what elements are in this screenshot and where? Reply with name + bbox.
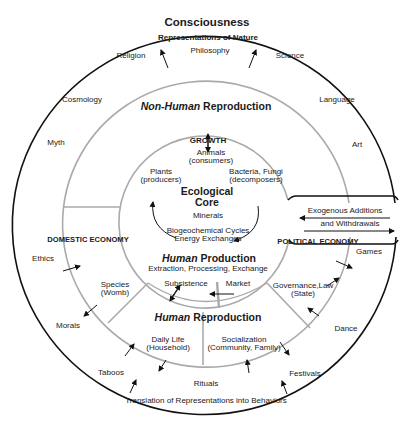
label-rituals: Rituals: [194, 380, 218, 388]
label-morals: Morals: [56, 322, 80, 330]
socialization-label: Socialization(Community, Family): [207, 336, 280, 353]
consciousness-title: Consciousness: [165, 16, 250, 28]
label-myth: Myth: [47, 139, 64, 147]
non-human-italic: Non-Human: [141, 100, 201, 112]
label-language: Language: [319, 96, 355, 104]
divider-market: [217, 282, 219, 308]
label-festivals: Festivals: [289, 370, 321, 378]
non-human-reproduction-title: Non-Human Reproduction: [141, 101, 272, 112]
label-taboos: Taboos: [98, 369, 124, 377]
translation-caption: Translation of Representations into Beha…: [125, 397, 287, 405]
production-subtitle: Extraction, Processing, Exchange: [148, 265, 268, 273]
cycles-label: Biogeochemical CyclesEnergy Exchanges: [167, 227, 250, 244]
growth-label: GROWTH: [190, 137, 226, 145]
political-economy-label: POLITICAL ECONOMY: [277, 238, 358, 246]
channel-top-line: [288, 196, 398, 200]
human-reproduction-title: Human Reproduction: [155, 312, 262, 323]
ecological-core-title: EcologicalCore: [181, 186, 234, 208]
label-philosophy: Philosophy: [190, 47, 229, 55]
human-production-title: Human Production: [162, 253, 256, 264]
daily-life-label: Daily Life(Household): [146, 336, 190, 353]
bacteria-fungi-label: Bacteria, Fungi(decomposers): [229, 168, 283, 185]
exogenous-additions-label: Exogenous Additions: [308, 207, 383, 215]
label-ethics: Ethics: [32, 255, 54, 263]
animals-label: Animals(consumers): [189, 149, 233, 166]
label-games: Games: [356, 248, 382, 256]
species-womb-label: Species(Womb): [101, 281, 129, 298]
market-label: Market: [226, 280, 250, 288]
domestic-economy-label: DOMESTIC ECONOMY: [47, 236, 128, 244]
governance-law-label: Governance,Law(State): [273, 282, 333, 299]
label-religion: Religion: [117, 52, 146, 60]
representations-subtitle: Representations of Nature: [158, 34, 258, 42]
withdrawals-label: and Withdrawals: [320, 220, 379, 228]
plants-label: Plants(producers): [141, 168, 182, 185]
label-cosmology: Cosmology: [62, 96, 102, 104]
label-dance: Dance: [334, 325, 357, 333]
subsistence-label: Subsistence: [164, 280, 208, 288]
minerals-label: Minerals: [193, 212, 223, 220]
label-art: Art: [352, 141, 362, 149]
label-science: Science: [276, 52, 304, 60]
